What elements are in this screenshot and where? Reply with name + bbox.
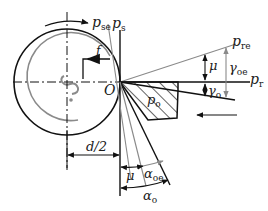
label-p-r: pr — [250, 71, 264, 89]
label-O: O — [104, 82, 116, 98]
label-f: f — [95, 44, 103, 58]
label-p-s: ps — [112, 15, 126, 33]
label-p-se: pse — [92, 14, 111, 32]
label-d-half: d/2 — [86, 139, 107, 154]
cutting-angle-diagram: pse ps f O pre pr μ γoe γo po d/2 μ αoe … — [0, 0, 268, 211]
label-alpha-oe: αoe — [144, 166, 164, 183]
label-mu-right: μ — [209, 58, 217, 73]
spiral-dot — [69, 98, 73, 102]
label-gamma-oe: γoe — [229, 60, 248, 77]
p-re-line — [120, 44, 236, 82]
label-mu-bottom: μ — [126, 168, 134, 183]
spiral-mark — [61, 76, 78, 94]
label-gamma-o: γo — [208, 83, 221, 100]
label-alpha-o: αo — [143, 188, 157, 205]
label-p-re: pre — [232, 33, 251, 51]
feed-bracket — [83, 59, 110, 79]
